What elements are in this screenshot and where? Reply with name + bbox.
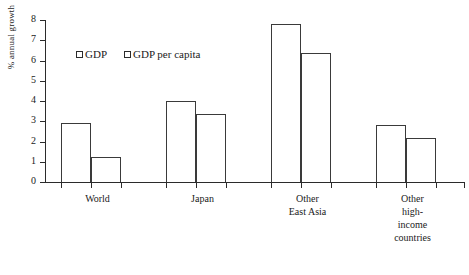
x-tick bbox=[406, 182, 407, 188]
y-tick: 1 bbox=[40, 162, 46, 163]
category-label-line: high- bbox=[360, 205, 465, 218]
x-axis-category-label: Japan bbox=[150, 192, 255, 205]
bar-chart: % annual growth 012345678 WorldJapanOthe… bbox=[0, 0, 469, 275]
category-label-line: Other bbox=[360, 192, 465, 205]
plot-area: 012345678 bbox=[45, 20, 465, 182]
y-tick-label: 1 bbox=[12, 155, 36, 167]
y-tick: 0 bbox=[40, 182, 46, 183]
x-axis-category-label: World bbox=[45, 192, 150, 205]
x-axis-category-label: Otherhigh-incomecountries bbox=[360, 192, 465, 244]
bar bbox=[61, 123, 91, 182]
y-tick: 5 bbox=[40, 81, 46, 82]
y-tick: 3 bbox=[40, 121, 46, 122]
y-tick: 7 bbox=[40, 40, 46, 41]
category-label-line: countries bbox=[360, 231, 465, 244]
y-tick-label: 0 bbox=[12, 175, 36, 187]
empty-square-icon bbox=[76, 51, 83, 58]
x-tick bbox=[436, 182, 437, 188]
x-tick bbox=[301, 182, 302, 188]
x-tick bbox=[121, 182, 122, 188]
y-tick-label: 8 bbox=[12, 13, 36, 25]
bar bbox=[166, 101, 196, 182]
y-tick-label: 2 bbox=[12, 135, 36, 147]
bar bbox=[406, 138, 436, 182]
y-tick-label: 7 bbox=[12, 33, 36, 45]
category-label-line: World bbox=[45, 192, 150, 205]
y-tick: 4 bbox=[40, 101, 46, 102]
x-tick bbox=[376, 182, 377, 188]
y-tick: 6 bbox=[40, 61, 46, 62]
legend-entry-gdp: GDP bbox=[76, 48, 107, 61]
category-label-line: East Asia bbox=[255, 205, 360, 218]
chart-legend: GDP GDP per capita bbox=[76, 48, 200, 61]
bar bbox=[376, 125, 406, 182]
bar bbox=[91, 157, 121, 182]
x-tick bbox=[91, 182, 92, 188]
x-tick bbox=[331, 182, 332, 188]
x-tick bbox=[464, 182, 465, 188]
bar bbox=[271, 24, 301, 182]
y-tick: 8 bbox=[40, 20, 46, 21]
y-tick-label: 4 bbox=[12, 94, 36, 106]
x-tick bbox=[226, 182, 227, 188]
x-tick bbox=[196, 182, 197, 188]
empty-square-icon bbox=[124, 51, 131, 58]
y-tick-label: 6 bbox=[12, 54, 36, 66]
y-tick-label: 5 bbox=[12, 74, 36, 86]
bar bbox=[301, 53, 331, 182]
x-axis-category-label: OtherEast Asia bbox=[255, 192, 360, 218]
category-label-line: Other bbox=[255, 192, 360, 205]
category-label-line: income bbox=[360, 218, 465, 231]
category-label-line: Japan bbox=[150, 192, 255, 205]
y-tick-label: 3 bbox=[12, 114, 36, 126]
x-axis-line bbox=[45, 182, 465, 183]
y-tick: 2 bbox=[40, 142, 46, 143]
x-tick bbox=[166, 182, 167, 188]
x-tick bbox=[271, 182, 272, 188]
legend-label-gdp: GDP bbox=[85, 48, 107, 61]
x-tick bbox=[61, 182, 62, 188]
legend-entry-gdp-per-capita: GDP per capita bbox=[124, 48, 200, 61]
legend-label-gdp-per-capita: GDP per capita bbox=[133, 48, 200, 61]
bar bbox=[196, 114, 226, 182]
